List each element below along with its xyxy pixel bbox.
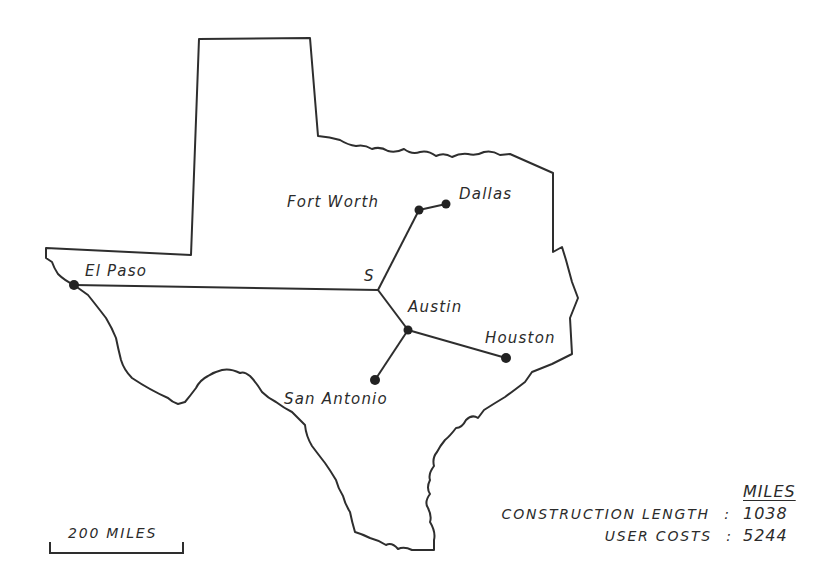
label-san-antonio: San Antonio (284, 390, 388, 408)
texas-outline (46, 38, 578, 550)
city-node-austin (404, 326, 413, 335)
legend-row-construction-length: CONSTRUCTION LENGTH : 1038 (502, 503, 801, 525)
city-node-houston (501, 353, 511, 363)
edge-steiner-fortworth (378, 210, 419, 290)
legend-label: USER COSTS (605, 526, 712, 547)
cost-legend: MILES CONSTRUCTION LENGTH : 1038 USER CO… (502, 481, 801, 547)
edge-steiner-austin (378, 290, 408, 330)
city-node-el-paso (69, 280, 79, 290)
label-dallas: Dallas (459, 185, 512, 203)
label-houston: Houston (485, 329, 556, 347)
label-steiner-point: S (364, 267, 375, 285)
edge-elpaso-steiner (74, 285, 378, 290)
city-nodes (69, 200, 511, 386)
label-austin: Austin (408, 298, 462, 316)
label-fort-worth: Fort Worth (287, 193, 379, 211)
city-node-fort-worth (415, 206, 424, 215)
legend-row-user-costs: USER COSTS : 5244 (502, 525, 801, 547)
edge-austin-sanantonio (375, 330, 408, 380)
legend-value: 5244 (743, 525, 801, 546)
scale-bar-label: 200 MILES (68, 525, 157, 541)
legend-value: 1038 (743, 503, 801, 524)
legend-label: CONSTRUCTION LENGTH (502, 504, 710, 525)
city-node-san-antonio (370, 375, 380, 385)
legend-separator: : (724, 504, 731, 525)
scale-bar (50, 542, 183, 553)
legend-header: MILES (743, 481, 801, 502)
label-el-paso: El Paso (85, 262, 147, 280)
network-edges (74, 204, 506, 380)
legend-separator: : (726, 526, 733, 547)
city-node-dallas (442, 200, 451, 209)
